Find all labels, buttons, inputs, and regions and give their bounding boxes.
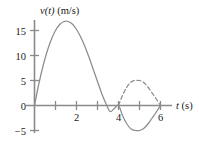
velocity-curve-solid xyxy=(35,21,161,131)
y-axis-title-variable: v(t) xyxy=(40,5,55,17)
y-tick-label-5: 5 xyxy=(21,76,26,87)
y-axis-title-unit: (m/s) xyxy=(57,5,80,17)
y-axis-title: v(t) (m/s) xyxy=(40,5,80,17)
y-tick-label-minus5: −5 xyxy=(15,126,26,137)
plot-canvas: 15 10 5 0 −5 2 4 6 v(t) (m/s) t (s) xyxy=(0,0,199,141)
x-tick-label-2: 2 xyxy=(74,112,79,123)
x-tick-label-6: 6 xyxy=(158,112,163,123)
x-tick-label-4: 4 xyxy=(116,112,122,123)
y-tick-label-0: 0 xyxy=(21,101,26,112)
y-tick-label-10: 10 xyxy=(16,51,27,62)
x-axis-title-unit: (s) xyxy=(182,100,194,112)
y-tick-label-15: 15 xyxy=(16,26,27,37)
x-axis-title: t (s) xyxy=(176,100,193,112)
velocity-time-graph-figure: 15 10 5 0 −5 2 4 6 v(t) (m/s) t (s) xyxy=(0,0,199,141)
